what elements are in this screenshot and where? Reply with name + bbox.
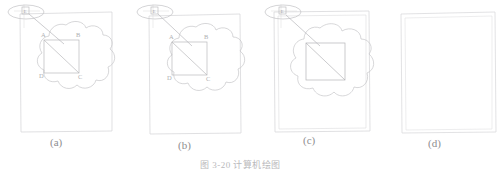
panel-d-frame-outer bbox=[401, 12, 496, 133]
panel-a-vertex-d: D bbox=[39, 72, 44, 79]
panel-b-frame bbox=[149, 14, 241, 134]
four-panel-geometry-figure: A B D C E A B D C E bbox=[0, 0, 500, 169]
panel-a-vertex-a: A bbox=[41, 31, 46, 38]
panel-c-leader-line bbox=[286, 15, 320, 46]
panel-c-frame-outer bbox=[274, 11, 370, 132]
panel-c-frame-inner bbox=[278, 15, 366, 129]
panel-c-callout-label: E bbox=[281, 9, 284, 14]
panel-c-cloud bbox=[291, 24, 374, 96]
panel-c-caption: (c) bbox=[303, 134, 315, 146]
panel-a-callout-label: E bbox=[24, 9, 27, 14]
panel-d-frame-inner bbox=[405, 16, 492, 130]
panel-b-diagonal bbox=[172, 42, 207, 75]
panel-b-leader-line bbox=[158, 14, 192, 46]
figure-caption: 图 3-20 计算机绘图 bbox=[200, 158, 281, 169]
panel-a-frame bbox=[20, 12, 112, 132]
panel-d bbox=[401, 12, 496, 133]
panel-d-caption: (d) bbox=[428, 137, 441, 149]
panel-a-vertex-c: C bbox=[78, 73, 82, 80]
panel-b-vertex-a: A bbox=[169, 33, 174, 40]
panel-a-leader-line bbox=[29, 14, 64, 44]
panel-a: A B D C E bbox=[8, 4, 115, 132]
panel-a-caption: (a) bbox=[50, 136, 62, 148]
panel-b: A B D C E bbox=[137, 4, 245, 134]
panel-b-caption: (b) bbox=[178, 139, 191, 151]
panel-b-vertex-d: D bbox=[167, 74, 172, 81]
panel-a-vertex-b: B bbox=[76, 31, 81, 38]
panel-b-vertex-c: C bbox=[206, 75, 210, 82]
panel-c-diagonal bbox=[306, 43, 345, 80]
panel-b-callout-label: E bbox=[153, 9, 156, 14]
panel-c: E bbox=[265, 4, 374, 132]
panel-b-vertex-b: B bbox=[204, 33, 209, 40]
panel-a-diagonal bbox=[44, 40, 79, 73]
